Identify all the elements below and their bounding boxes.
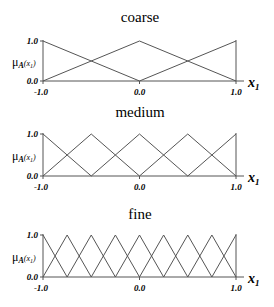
x-tick-label-mid: 0.0	[134, 182, 146, 192]
y-axis-label: μA(x1)	[12, 55, 36, 70]
membership-function	[67, 235, 115, 277]
x-tick-label-right: 1.0	[230, 87, 242, 97]
membership-function	[91, 235, 139, 277]
y-tick-label-top: 1.0	[27, 36, 39, 46]
panel-fine: fine1.00.0-1.00.01.0μA(x1)x1	[12, 206, 260, 293]
panel-medium: medium1.00.0-1.00.01.0μA(x1)x1	[12, 104, 260, 192]
membership-function	[115, 235, 163, 277]
x-tick-label-mid: 0.0	[134, 283, 146, 293]
membership-function	[43, 134, 140, 176]
membership-function	[188, 235, 236, 277]
x-tick-label-left: -1.0	[34, 182, 49, 192]
y-tick-label-bottom: 0.0	[27, 171, 39, 181]
y-axis-label: μA(x1)	[12, 149, 36, 164]
x-tick-label-left: -1.0	[34, 87, 49, 97]
y-tick-label-bottom: 0.0	[27, 272, 39, 282]
membership-function	[43, 41, 236, 81]
x-tick-label-left: -1.0	[34, 283, 49, 293]
membership-function	[140, 235, 188, 277]
y-tick-label-top: 1.0	[27, 129, 39, 139]
x-axis-label: x1	[247, 170, 260, 187]
y-tick-label-bottom: 0.0	[27, 76, 39, 86]
panel-title: medium	[115, 104, 164, 120]
x-tick-label-mid: 0.0	[134, 87, 146, 97]
y-tick-label-top: 1.0	[27, 230, 39, 240]
panel-coarse: coarse1.00.0-1.00.01.0μA(x1)x1	[12, 9, 260, 97]
membership-function	[164, 235, 212, 277]
y-axis-label: μA(x1)	[12, 250, 36, 265]
x-tick-label-right: 1.0	[230, 283, 242, 293]
membership-function	[91, 134, 188, 176]
panel-title: coarse	[121, 9, 160, 25]
membership-function	[43, 235, 91, 277]
x-tick-label-right: 1.0	[230, 182, 242, 192]
membership-function	[140, 134, 237, 176]
x-axis-label: x1	[247, 75, 260, 92]
membership-functions-figure: coarse1.00.0-1.00.01.0μA(x1)x1medium1.00…	[0, 0, 274, 307]
panel-title: fine	[128, 206, 152, 222]
x-axis-label: x1	[247, 271, 260, 288]
